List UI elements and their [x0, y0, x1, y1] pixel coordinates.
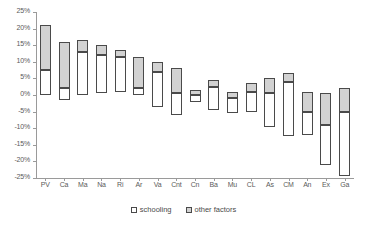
chart-legend: schoolingother factors — [0, 205, 367, 214]
y-axis-label: 20% — [0, 24, 30, 31]
bar-segment-schooling — [208, 87, 219, 110]
y-axis-label: -5% — [0, 107, 30, 114]
bar-segment-schooling — [283, 82, 294, 137]
legend-label: other factors — [195, 205, 237, 214]
y-axis-label: -15% — [0, 140, 30, 147]
legend-swatch-icon — [131, 207, 137, 213]
bar-segment-other-factors — [339, 88, 350, 111]
legend-item-schooling: schooling — [131, 205, 172, 214]
bar-segment-schooling — [59, 88, 70, 100]
bar-segment-schooling — [96, 55, 107, 93]
y-axis-label: -10% — [0, 123, 30, 130]
y-axis-label: 0% — [0, 90, 30, 97]
bar-segment-schooling — [246, 92, 257, 112]
bar-segment-schooling — [302, 112, 313, 135]
bar-segment-other-factors — [264, 78, 275, 93]
bar-segment-schooling — [171, 93, 182, 115]
x-axis-label: Ga — [332, 181, 358, 188]
y-axis-label: 25% — [0, 7, 30, 14]
range-bar-chart: 25%20%15%10%5%0%-5%-10%-15%-20%-25% PVCa… — [0, 0, 367, 227]
bar-segment-other-factors — [115, 50, 126, 57]
bar-segment-schooling — [190, 95, 201, 102]
bar-segment-other-factors — [77, 40, 88, 52]
bar-segment-schooling — [77, 52, 88, 95]
bar-segment-other-factors — [227, 92, 238, 99]
bar-segment-other-factors — [96, 45, 107, 55]
bar-segment-other-factors — [133, 57, 144, 89]
y-axis-label: 15% — [0, 40, 30, 47]
y-axis-label: 5% — [0, 73, 30, 80]
bar-segment-schooling — [320, 125, 331, 165]
y-axis-tick — [33, 178, 36, 179]
bar-segment-other-factors — [40, 25, 51, 70]
bar-segment-other-factors — [320, 93, 331, 125]
bar-segment-schooling — [264, 93, 275, 126]
bar-segment-other-factors — [152, 62, 163, 72]
bar-segment-other-factors — [208, 80, 219, 87]
bar-segment-schooling — [152, 72, 163, 107]
plot-area — [36, 12, 354, 178]
y-axis-label: -25% — [0, 173, 30, 180]
legend-label: schooling — [140, 205, 172, 214]
bar-segment-schooling — [133, 88, 144, 95]
bar-segment-other-factors — [246, 83, 257, 91]
legend-item-other: other factors — [186, 205, 237, 214]
bar-segment-schooling — [40, 70, 51, 95]
bar-segment-schooling — [227, 98, 238, 113]
bar-segment-schooling — [339, 112, 350, 177]
y-axis-label: -20% — [0, 156, 30, 163]
y-axis-label: 10% — [0, 57, 30, 64]
bar-segment-other-factors — [302, 92, 313, 112]
legend-swatch-icon — [186, 207, 192, 213]
bar-segment-other-factors — [59, 42, 70, 88]
bar-segment-schooling — [115, 57, 126, 92]
bar-segment-other-factors — [171, 68, 182, 93]
bar-segment-other-factors — [283, 73, 294, 81]
